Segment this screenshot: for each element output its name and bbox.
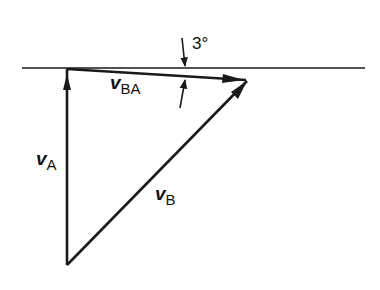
label-vB: vB	[155, 183, 176, 205]
angle-arrow-bottom	[180, 80, 185, 108]
label-vA-symbol: v	[36, 148, 47, 169]
angle-arrow-top	[182, 38, 185, 66]
label-vB-subscript: B	[166, 191, 176, 208]
diagram-graphics	[0, 0, 380, 290]
velocity-triangle-diagram: 3° vBA vA vB	[0, 0, 380, 290]
label-vB-symbol: v	[155, 183, 166, 204]
label-vBA-symbol: v	[110, 72, 121, 93]
label-vA: vA	[36, 148, 57, 170]
vector-vB-line	[67, 81, 247, 265]
angle-value: 3°	[192, 34, 208, 53]
label-vA-subscript: A	[47, 156, 57, 173]
vector-vA-arrowhead	[63, 74, 71, 90]
label-vBA: vBA	[110, 72, 141, 94]
vector-vBA-line	[67, 69, 246, 80]
label-vBA-subscript: BA	[121, 80, 141, 97]
angle-label: 3°	[192, 34, 208, 54]
